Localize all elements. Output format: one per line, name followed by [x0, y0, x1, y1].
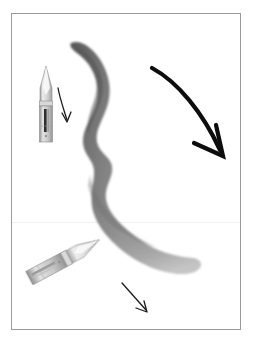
scan-seam-line: [12, 222, 240, 223]
illustration-canvas: Pocket knife rotation illustration Pocke…: [0, 0, 253, 343]
image-frame-border: [11, 13, 241, 330]
